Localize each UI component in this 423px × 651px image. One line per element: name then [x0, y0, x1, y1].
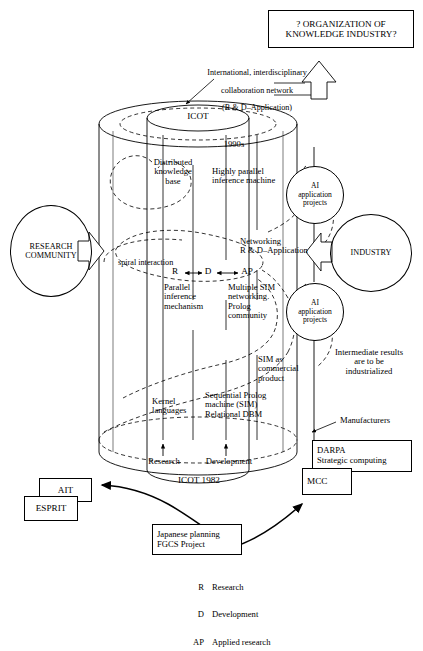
legend-row-d: D Development — [182, 610, 322, 619]
legend-desc-r: Research — [204, 583, 244, 592]
label-development: Development — [196, 457, 262, 466]
box-ait-label: AIT — [54, 485, 77, 495]
legend: R Research D Development AP Applied rese… — [182, 564, 322, 651]
circle-research-community: RESEARCHCOMMUNITY — [10, 205, 92, 297]
box-japanese-planning-label: Japanese planningFGCS Project — [153, 530, 224, 549]
legend-key-d: D — [182, 610, 204, 619]
circle-ai-application-projects-upper: AIapplicationprojects — [286, 166, 344, 224]
box-mcc-label: MCC — [303, 476, 331, 486]
label-ap: AP — [238, 267, 256, 277]
legend-key-r: R — [182, 583, 204, 592]
box-esprit-label: ESPRIT — [32, 503, 71, 513]
label-research: Research — [138, 457, 190, 466]
label-intermediate-results: Intermediate resultsare to beindustriali… — [318, 348, 420, 376]
cylinder-top-label: ICOT — [168, 112, 228, 122]
label-spiral-interaction: spiral interaction — [118, 259, 204, 268]
label-parallel-inference-mechanism: Parallelinferencemechanism — [164, 283, 226, 311]
label-highly-parallel-inference-machine: Highly parallelinference machine — [212, 167, 300, 186]
label-d: D — [201, 267, 215, 277]
box-darpa-label: DARPAStrategic computing — [313, 446, 390, 465]
label-kernel-languages: Kernellanguages — [152, 397, 210, 416]
box-esprit: ESPRIT — [24, 496, 78, 521]
legend-row-r: R Research — [182, 583, 322, 592]
legend-desc-d: Development — [204, 610, 258, 619]
label-networking: NetworkingR & D–Application — [240, 237, 332, 256]
circle-industry-label: INDUSTRY — [351, 248, 392, 257]
legend-key-ap: AP — [182, 638, 204, 647]
circle-ai-lower-label: AIapplicationprojects — [298, 299, 332, 324]
label-sequential-prolog: Sequential Prologmachine (SIM)Relational… — [205, 391, 305, 419]
title-box-text: ? ORGANIZATION OFKNOWLEDGE INDUSTRY? — [282, 19, 401, 40]
label-r: R — [168, 267, 182, 277]
circle-research-community-label: RESEARCHCOMMUNITY — [25, 242, 76, 260]
title-box: ? ORGANIZATION OFKNOWLEDGE INDUSTRY? — [268, 10, 414, 48]
cylinder-bottom-label: ICOT 1982 — [163, 476, 235, 486]
circle-ai-upper-label: AIapplicationprojects — [298, 182, 332, 207]
box-japanese-planning: Japanese planningFGCS Project — [152, 524, 242, 555]
label-manufacturers: Manufacturers — [340, 416, 420, 425]
legend-desc-ap: Applied research — [204, 638, 270, 647]
circle-industry: INDUSTRY — [330, 214, 412, 292]
circle-ai-application-projects-lower: AIapplicationprojects — [286, 283, 344, 341]
legend-row-ap: AP Applied research — [182, 638, 322, 647]
era-label: 1990s — [212, 140, 256, 149]
box-mcc: MCC — [302, 468, 352, 495]
label-distributed-knowledge-base: Distributedknowledgebase — [140, 158, 206, 186]
label-sim-commercial-product: SIM ascommercialproduct — [258, 355, 318, 383]
